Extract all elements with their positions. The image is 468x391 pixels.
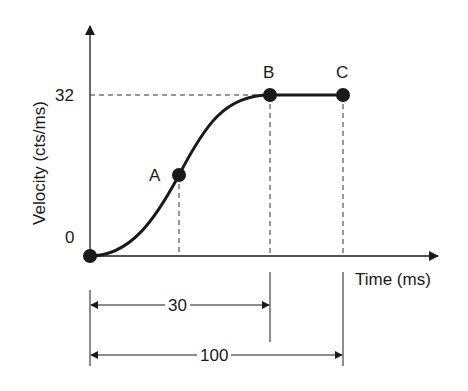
x-axis-label: Time (ms) [355, 271, 431, 288]
velocity-profile-diagram [0, 0, 468, 391]
point-a-label: A [149, 167, 160, 184]
y-tick-0: 0 [65, 229, 74, 246]
y-tick-32: 32 [55, 87, 74, 104]
origin-point [83, 249, 97, 263]
point-c-label: C [336, 64, 348, 81]
y-axis-label: Velocity (cts/ms) [30, 101, 50, 225]
dimension-100-label: 100 [197, 347, 231, 364]
point-b-label: B [263, 64, 274, 81]
point-a [172, 168, 186, 182]
point-b [263, 88, 277, 102]
dimension-30-label: 30 [165, 297, 190, 314]
point-c [336, 88, 350, 102]
velocity-curve [90, 95, 343, 256]
